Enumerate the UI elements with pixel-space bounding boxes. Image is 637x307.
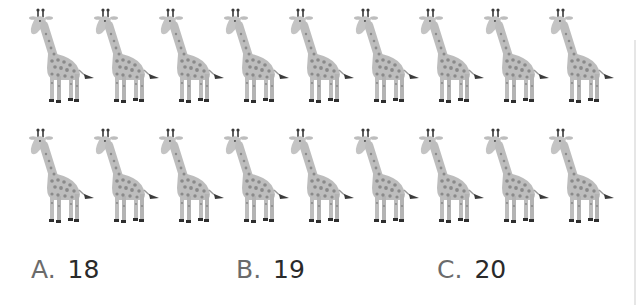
giraffe-icon: [28, 128, 98, 226]
giraffe-icon: [28, 8, 98, 106]
giraffe-row-2: [0, 128, 637, 228]
answer-choices: A.18 B.19 C.20: [0, 252, 637, 292]
giraffe-icon: [483, 128, 553, 226]
choice-b-letter: B.: [236, 255, 261, 284]
giraffe-icon: [483, 8, 553, 106]
giraffe-row-1: [0, 8, 637, 108]
giraffe-icon: [418, 128, 488, 226]
giraffe-icon: [93, 128, 163, 226]
giraffe-icon: [353, 128, 423, 226]
choice-b[interactable]: B.19: [236, 252, 305, 288]
choice-c-letter: C.: [437, 255, 462, 284]
choice-c-value: 20: [474, 255, 506, 284]
choice-a[interactable]: A.18: [31, 252, 99, 288]
giraffe-icon: [288, 128, 358, 226]
giraffe-icon: [548, 128, 618, 226]
choice-a-letter: A.: [31, 255, 56, 284]
giraffe-icon: [223, 128, 293, 226]
giraffe-icon: [353, 8, 423, 106]
giraffe-icon: [418, 8, 488, 106]
giraffe-icon: [158, 128, 228, 226]
giraffe-icon: [548, 8, 618, 106]
choice-b-value: 19: [273, 255, 305, 284]
giraffe-icon: [223, 8, 293, 106]
choice-a-value: 18: [68, 255, 100, 284]
choice-c[interactable]: C.20: [437, 252, 506, 288]
giraffe-icon: [158, 8, 228, 106]
page-edge-divider: [634, 40, 636, 305]
giraffe-icon: [288, 8, 358, 106]
giraffe-icon: [93, 8, 163, 106]
